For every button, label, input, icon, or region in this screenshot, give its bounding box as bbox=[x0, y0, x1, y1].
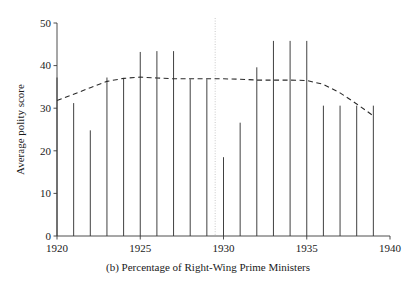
x-tick-labels-group: 19201925193019351940 bbox=[46, 242, 402, 254]
x-tick-label: 1930 bbox=[213, 242, 236, 254]
chart-figure: 01020304050 19201925193019351940 Average… bbox=[0, 0, 416, 285]
chart-canvas: 01020304050 19201925193019351940 Average… bbox=[0, 0, 416, 285]
axes-group bbox=[54, 23, 391, 240]
y-axis-title: Average polity score bbox=[14, 84, 26, 175]
y-tick-labels-group: 01020304050 bbox=[40, 17, 52, 242]
y-tick-label: 10 bbox=[40, 187, 52, 199]
figure-caption: (b) Percentage of Right-Wing Prime Minis… bbox=[106, 261, 310, 274]
y-tick-label: 40 bbox=[40, 59, 52, 71]
x-tick-label: 1920 bbox=[46, 242, 69, 254]
y-tick-label: 50 bbox=[40, 17, 52, 29]
y-tick-label: 20 bbox=[40, 145, 52, 157]
y-tick-label: 0 bbox=[46, 230, 52, 242]
y-tick-label: 30 bbox=[40, 102, 52, 114]
x-tick-label: 1935 bbox=[296, 242, 319, 254]
x-tick-label: 1925 bbox=[129, 242, 152, 254]
x-tick-label: 1940 bbox=[379, 242, 402, 254]
